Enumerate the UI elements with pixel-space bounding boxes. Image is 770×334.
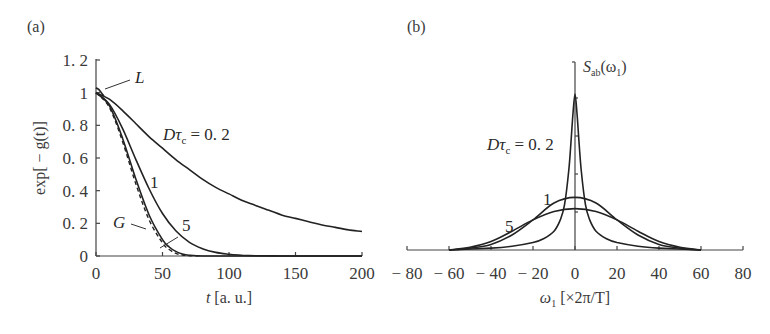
y-tick-label: 0. 8 xyxy=(63,116,89,135)
y-tick-label: 1 xyxy=(80,84,89,103)
panel-b-label: (b) xyxy=(407,18,426,36)
y-tick-label: 0. 2 xyxy=(63,214,89,233)
panel-a-label: (a) xyxy=(27,18,45,36)
panel-b-x-ticks: − 80− 60− 40− 20020406080 xyxy=(392,246,752,283)
panel-a-y-ticks: 00. 20. 40. 60. 811. 2 xyxy=(63,51,101,266)
x-tick-label: 40 xyxy=(651,264,668,283)
label-dtau-5-b: 5 xyxy=(505,217,514,236)
x-tick-label: 0 xyxy=(571,264,580,283)
panel-a-curves xyxy=(96,88,362,256)
label-dtau-0.2-b: Dτc = 0. 2 xyxy=(486,135,554,156)
x-tick-label: 80 xyxy=(735,264,752,283)
panel-a-y-axis-title: exp[ − g(t)] xyxy=(31,121,49,195)
x-tick-label: 150 xyxy=(283,264,309,283)
curve-1 xyxy=(96,93,362,256)
x-tick-label: − 20 xyxy=(518,264,549,283)
leader-G xyxy=(131,224,146,229)
x-tick-label: 200 xyxy=(349,264,375,283)
x-tick-label: 100 xyxy=(216,264,242,283)
y-tick-label: 0. 4 xyxy=(63,182,89,201)
panel-a-x-axis-title: t [a. u.] xyxy=(206,289,252,306)
label-L: L xyxy=(134,68,144,87)
x-tick-label: − 60 xyxy=(434,264,465,283)
curve-d-c-0.2 xyxy=(96,93,362,232)
figure: (a) 00. 20. 40. 60. 811. 2 050100150200 … xyxy=(0,0,770,334)
label-dtau-0.2-a: Dτc = 0. 2 xyxy=(162,125,230,146)
panel-b-y-axis-title: Sab(ω1) xyxy=(583,58,627,78)
x-unit: [a. u.] xyxy=(210,289,252,306)
label-dtau-1-a: 1 xyxy=(150,173,159,192)
label-G: G xyxy=(113,213,125,232)
x-tick-label: − 80 xyxy=(392,264,423,283)
y-tick-label: 0. 6 xyxy=(63,149,89,168)
label-dtau-5-a: 5 xyxy=(182,216,191,235)
panel-b-x-axis-title: ω1 [×2π/T] xyxy=(540,289,610,309)
label-dtau-1-b: 1 xyxy=(543,190,552,209)
curve-5 xyxy=(96,93,362,256)
y-tick-label: 1. 2 xyxy=(63,51,89,70)
x-tick-label: 20 xyxy=(609,264,626,283)
x-tick-label: 50 xyxy=(154,264,171,283)
x-tick-label: − 40 xyxy=(476,264,507,283)
panel-a: (a) 00. 20. 40. 60. 811. 2 050100150200 … xyxy=(27,18,375,306)
leader-L xyxy=(105,80,130,89)
panel-b: (b) − 80− 60− 40− 20020406080 Sab(ω1) ω1… xyxy=(392,18,752,309)
x-tick-label: 0 xyxy=(92,264,101,283)
y-tick-label: 0 xyxy=(80,247,89,266)
x-tick-label: 60 xyxy=(693,264,710,283)
